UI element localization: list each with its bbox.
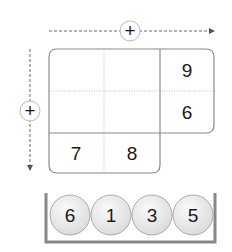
ball[interactable]: 3 (132, 195, 172, 235)
plus-icon: + (124, 20, 135, 41)
ball[interactable]: 5 (173, 195, 213, 235)
cell-top-right: 9 (182, 60, 193, 81)
ball-number: 3 (147, 205, 158, 226)
ball-number: 5 (188, 205, 199, 226)
vertical-plus-operator: + (20, 100, 40, 121)
horizontal-plus-operator: + (120, 20, 140, 41)
ball[interactable]: 1 (91, 195, 131, 235)
ball[interactable]: 6 (50, 195, 90, 235)
plus-icon: + (24, 100, 35, 121)
ball-number: 6 (65, 205, 76, 226)
ball-number: 1 (106, 205, 117, 226)
cell-bottom-left: 7 (71, 143, 82, 164)
cell-bottom-middle: 8 (127, 143, 138, 164)
cell-middle-right: 6 (182, 102, 193, 123)
addition-grid-puzzle: + + 9 6 7 8 6 1 3 5 (0, 0, 232, 252)
